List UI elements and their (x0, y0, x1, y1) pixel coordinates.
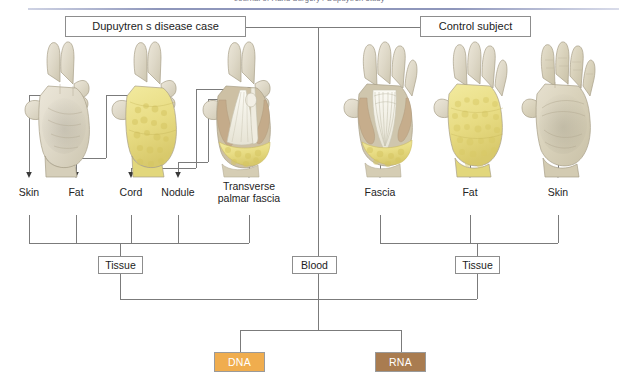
label-case-nodule: Nodule (153, 186, 203, 198)
source-box-blood[interactable]: Blood (292, 256, 337, 274)
label-case-transverse-palmar-fascia: Transverse palmar fascia (208, 180, 290, 204)
hand-image-case-fat (104, 38, 192, 178)
label-case-cord: Cord (111, 186, 151, 198)
product-box-dna[interactable]: DNA (214, 352, 265, 372)
label-case-skin: Skin (9, 186, 49, 198)
hand-image-case-skin (18, 38, 104, 178)
hand-image-control-skin (518, 38, 602, 178)
label-control-fat: Fat (450, 186, 490, 198)
hand-image-case-cord (196, 38, 292, 178)
product-box-rna[interactable]: RNA (375, 352, 426, 372)
hand-image-control-fascia (340, 38, 424, 178)
label-control-skin: Skin (538, 186, 578, 198)
source-box-tissue-right[interactable]: Tissue (455, 256, 500, 274)
source-box-tissue-left[interactable]: Tissue (98, 256, 143, 274)
group-header-case[interactable]: Dupuytren s disease case (65, 16, 246, 37)
label-control-fascia: Fascia (357, 186, 403, 198)
figure-canvas: Journal of Hand Surgery / Dupuytren stud… (0, 0, 619, 385)
label-case-fat: Fat (56, 186, 96, 198)
hand-image-control-fat (430, 38, 514, 178)
group-header-control[interactable]: Control subject (420, 16, 531, 37)
